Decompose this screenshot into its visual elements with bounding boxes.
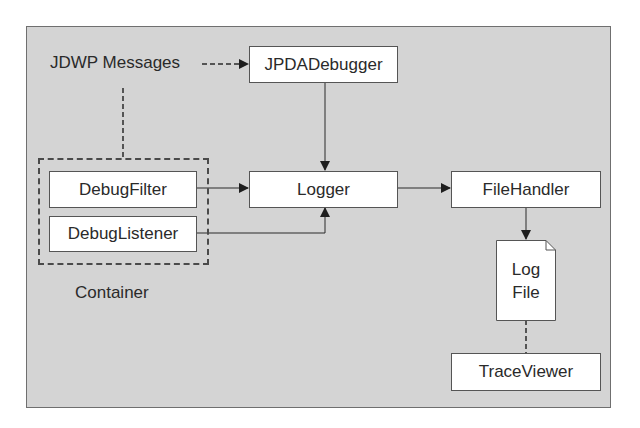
debug-filter-node: DebugFilter — [49, 171, 197, 208]
logger-node: Logger — [249, 171, 398, 208]
file-handler-node: FileHandler — [451, 171, 601, 208]
log-file-line1: Log — [512, 258, 540, 281]
debug-listener-node: DebugListener — [49, 216, 197, 252]
jpda-debugger-node: JPDADebugger — [249, 46, 398, 83]
trace-viewer-node: TraceViewer — [451, 353, 601, 391]
container-label: Container — [75, 283, 149, 303]
jdwp-messages-label: JDWP Messages — [50, 53, 180, 73]
log-file-document: Log File — [496, 240, 556, 321]
diagram-canvas: JDWP Messages JPDADebugger DebugFilter D… — [0, 0, 640, 428]
log-file-line2: File — [512, 281, 539, 304]
